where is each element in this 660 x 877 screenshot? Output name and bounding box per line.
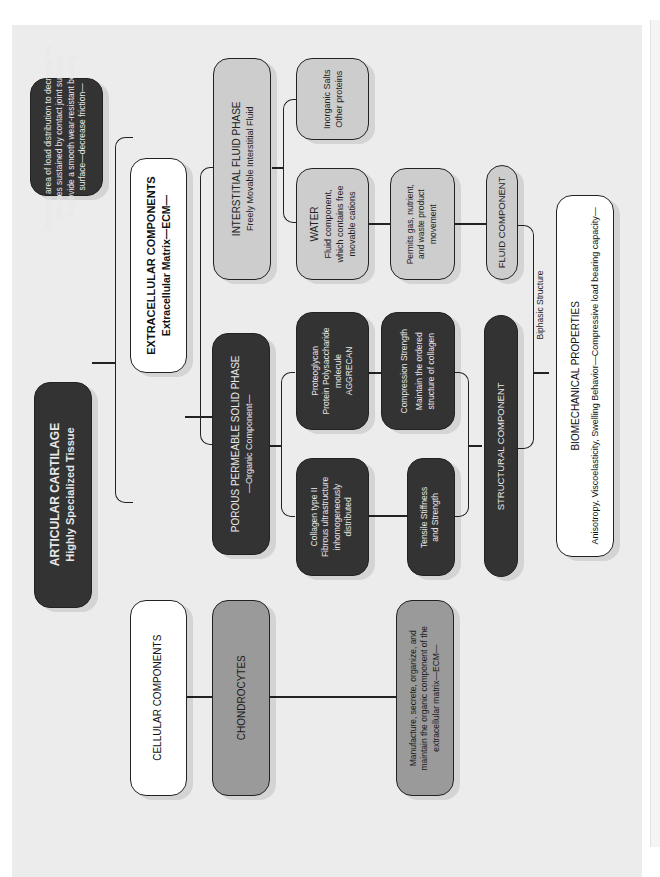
root-subtitle: Highly Specialized Tissue xyxy=(64,423,79,566)
root-box-articular-cartilage: ARTICULAR CARTILAGE Highly Specialized T… xyxy=(34,382,92,608)
extracellular-title: EXTRACELLULAR COMPONENTS xyxy=(144,176,159,354)
function-text: Increase area of load distribution to de… xyxy=(44,45,55,229)
water-text: which contains free xyxy=(333,185,345,262)
connector xyxy=(92,362,116,364)
fluid-component-box: FLUID COMPONENT xyxy=(486,165,518,280)
compression-text: Maintain the ordered xyxy=(414,329,425,414)
tensile-text: and Strength xyxy=(431,486,442,547)
solid-phase-subtitle: —Organic Component— xyxy=(242,356,254,533)
collagen-text: distributed xyxy=(344,477,355,557)
connector xyxy=(516,225,534,449)
solid-phase-title: POROUS PERMEABLE SOLID PHASE xyxy=(228,356,242,533)
collagen-text: inhomogeneously xyxy=(333,477,344,557)
biomech-title: BIOMECHANICAL PROPERTIES xyxy=(569,207,583,544)
extracellular-subtitle: Extracellular Matrix—ECM— xyxy=(159,176,173,354)
connector xyxy=(533,372,549,374)
structural-title: STRUCTURAL COMPONENT xyxy=(495,382,508,510)
connector xyxy=(468,445,482,447)
permits-text: movement xyxy=(428,184,439,264)
collagen-box: Collagen type II Fibrous ultrastructure … xyxy=(296,458,369,576)
permits-text: Permits gas, nutrient, xyxy=(405,184,416,264)
proteoglycan-text: Protein Polysaccharide xyxy=(321,328,332,415)
collagen-text: Collagen type II xyxy=(310,477,321,557)
function-text: stresses sustained by contact joint surf… xyxy=(55,45,66,229)
chondrocyte-role-text: maintain the organic component of the xyxy=(419,626,430,771)
function-box: Increase area of load distribution to de… xyxy=(30,78,103,196)
compression-strength-box: Compression Strength Maintain the ordere… xyxy=(381,312,455,430)
connector xyxy=(368,223,390,225)
chondrocyte-role-box: Manufacture, secrete, organize, and main… xyxy=(396,600,454,796)
collagen-text: Fibrous ultrastructure xyxy=(321,477,332,557)
tensile-text: Tensile Stiffness xyxy=(420,486,431,547)
connector xyxy=(281,372,295,517)
water-title: WATER xyxy=(308,185,322,262)
biphasic-structure-label: Biphasic Structure xyxy=(535,271,545,340)
chondrocytes-title: CHONDROCYTES xyxy=(234,655,248,740)
water-box: WATER Fluid component, which contains fr… xyxy=(296,168,369,280)
connector xyxy=(185,696,213,698)
porous-solid-phase-box: POROUS PERMEABLE SOLID PHASE —Organic Co… xyxy=(212,333,270,555)
cellular-components-box: CELLULAR COMPONENTS xyxy=(130,600,187,796)
cellular-title: CELLULAR COMPONENTS xyxy=(152,635,166,761)
interstitial-fluid-phase-box: INTERSTITIAL FLUID PHASE Freely Movable … xyxy=(213,58,271,280)
biomechanical-properties-box: BIOMECHANICAL PROPERTIES Anisotropy, Vis… xyxy=(556,195,614,557)
compression-text: structure of collagen xyxy=(426,329,437,414)
biomech-subtitle: Anisotropy, Viscoelasticity, Swelling Be… xyxy=(589,207,601,544)
page-background xyxy=(12,25,642,877)
inorganic-salts-box: Inorganic Salts Other proteins xyxy=(296,58,369,140)
connector xyxy=(283,99,297,223)
connector xyxy=(268,696,396,698)
page-edge xyxy=(650,20,660,847)
permits-box: Permits gas, nutrient, and waste product… xyxy=(390,168,455,280)
proteoglycan-box: Proteoglycan Protein Polysaccharide mole… xyxy=(296,312,369,430)
extracellular-components-box: EXTRACELLULAR COMPONENTS Extracellular M… xyxy=(130,158,187,373)
root-title: ARTICULAR CARTILAGE xyxy=(47,423,63,566)
inorganic-text: Other proteins xyxy=(332,69,344,129)
proteoglycan-text: molecule xyxy=(333,328,344,415)
connector xyxy=(455,372,469,517)
fluid-phase-title: INTERSTITIAL FLUID PHASE xyxy=(229,102,243,237)
water-text: Fluid component, xyxy=(321,185,333,262)
water-text: movable cations xyxy=(345,185,357,262)
proteoglycan-text: Proteoglycan xyxy=(310,328,321,415)
tensile-strength-box: Tensile Stiffness and Strength xyxy=(407,458,455,576)
permits-text: and waste product xyxy=(417,184,428,264)
structural-component-box: STRUCTURAL COMPONENT xyxy=(484,315,518,577)
proteoglycan-text: AGGRECAN xyxy=(344,328,355,415)
function-text: surface—decrease friction— xyxy=(78,45,89,229)
fluid-component-title: FLUID COMPONENT xyxy=(496,177,509,269)
inorganic-text: Inorganic Salts xyxy=(320,69,332,129)
chondrocyte-role-text: extracellular matrix—ECM— xyxy=(431,626,442,771)
fluid-phase-subtitle: Freely Movable Interstitial Fluid xyxy=(243,102,255,237)
chondrocyte-role-text: Manufacture, secrete, organize, and xyxy=(408,626,419,771)
connector xyxy=(368,515,408,517)
connector xyxy=(455,223,487,225)
compression-title: Compression Strength xyxy=(399,329,410,414)
function-text: To provide a smooth wear-resistant beari… xyxy=(67,45,78,229)
chondrocytes-box: CHONDROCYTES xyxy=(212,600,270,796)
